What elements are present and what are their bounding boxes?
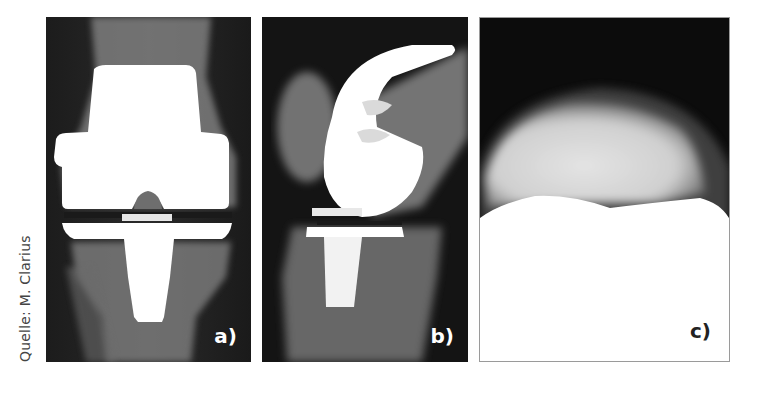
- xray-panel-a: a): [46, 17, 251, 362]
- knee-lateral-xray-image: [262, 17, 468, 362]
- patella-axial-xray-image: [480, 18, 730, 362]
- knee-ap-xray-image: [46, 17, 251, 362]
- figure-source-caption: Quelle: M. Clarius: [17, 235, 33, 362]
- panel-label-a: a): [214, 326, 237, 346]
- xray-panel-b: b): [262, 17, 468, 362]
- panel-label-b: b): [431, 326, 454, 346]
- panel-label-c: c): [690, 321, 711, 341]
- xray-panel-c: c): [479, 17, 730, 362]
